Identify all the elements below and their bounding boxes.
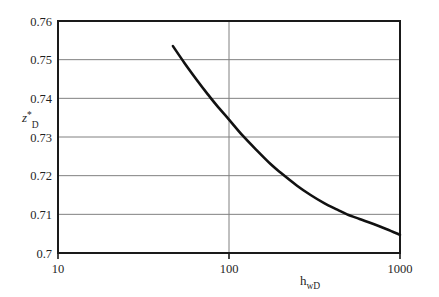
ytick-label-1: 0.75	[30, 53, 52, 67]
ytick-label-5: 0.71	[30, 208, 52, 222]
y-axis-title-subscript: D	[32, 120, 39, 130]
ytick-label-4: 0.72	[30, 169, 52, 183]
chart-figure: 0.76 0.75 0.74 0.73 0.72 0.71 0.7 10 100…	[0, 0, 439, 297]
x-axis-title-subscript: wD	[307, 281, 321, 291]
ytick-label-0: 0.76	[30, 15, 52, 29]
y-axis-title-superscript: *	[27, 110, 32, 120]
ytick-label-3: 0.73	[30, 131, 52, 145]
chart-svg: 0.76 0.75 0.74 0.73 0.72 0.71 0.7 10 100…	[0, 0, 439, 297]
ytick-label-6: 0.7	[36, 247, 52, 261]
xtick-label-100: 100	[220, 262, 239, 276]
ytick-label-2: 0.74	[30, 92, 53, 106]
xtick-label-10: 10	[52, 262, 65, 276]
xtick-label-1000: 1000	[388, 262, 413, 276]
